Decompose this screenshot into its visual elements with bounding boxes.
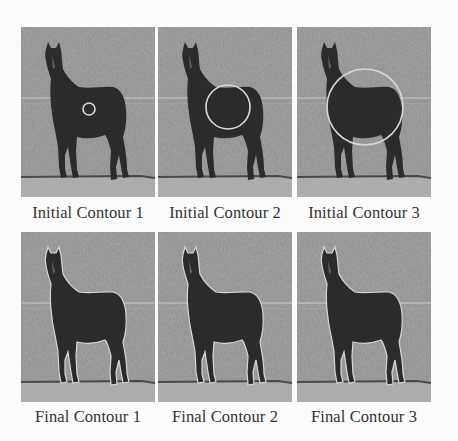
panel-initial-contour-1 <box>21 27 155 197</box>
contour-figure: Initial Contour 1 Initial Contour 2 Init… <box>0 0 458 441</box>
caption-initial-contour-3: Initial Contour 3 <box>291 203 437 223</box>
caption-initial-contour-2: Initial Contour 2 <box>152 203 298 223</box>
caption-final-contour-2: Final Contour 2 <box>152 407 298 427</box>
horse-image <box>21 232 155 402</box>
panel-final-contour-1 <box>21 232 155 402</box>
caption-final-contour-3: Final Contour 3 <box>291 407 437 427</box>
horse-image <box>297 232 431 402</box>
horse-image <box>297 27 431 197</box>
horse-image <box>158 27 292 197</box>
panel-final-contour-3 <box>297 232 431 402</box>
panel-initial-contour-3 <box>297 27 431 197</box>
panel-final-contour-2 <box>158 232 292 402</box>
caption-final-contour-1: Final Contour 1 <box>15 407 161 427</box>
caption-initial-contour-1: Initial Contour 1 <box>15 203 161 223</box>
horse-image <box>158 232 292 402</box>
panel-initial-contour-2 <box>158 27 292 197</box>
horse-image <box>21 27 155 197</box>
